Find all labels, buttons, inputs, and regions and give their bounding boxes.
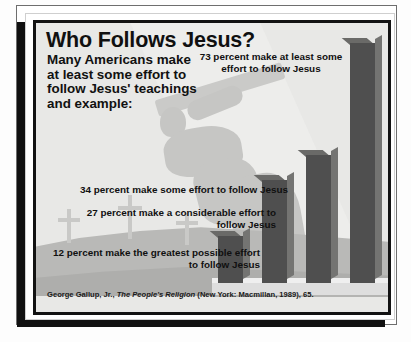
bar-side-face xyxy=(375,35,382,279)
callout-73-percent: 73 percent make at least some effort to … xyxy=(196,51,346,74)
callout-27-percent: 27 percent make a considerable effort to… xyxy=(58,207,276,230)
citation-publisher: (New York: Macmillan, 1989), 65. xyxy=(195,290,313,299)
bar-34-percent xyxy=(306,155,331,283)
figure-frame: Who Follows Jesus? Many Americans make a… xyxy=(33,20,391,315)
scanned-figure: Who Follows Jesus? Many Americans make a… xyxy=(0,0,411,342)
citation-book-title: The People's Religion xyxy=(117,290,196,299)
intro-paragraph: Many Americans make at least some effort… xyxy=(47,53,197,111)
bar-front-face xyxy=(306,155,331,283)
bar-side-face xyxy=(331,147,338,279)
figure-title: Who Follows Jesus? xyxy=(46,28,255,53)
bar-front-face xyxy=(350,43,375,283)
figure-artwork: Who Follows Jesus? Many Americans make a… xyxy=(36,23,388,312)
source-citation: George Gallup, Jr., The People's Religio… xyxy=(47,290,314,299)
citation-author: George Gallup, Jr., xyxy=(47,290,117,299)
callout-12-percent: 12 percent make the greatest possible ef… xyxy=(48,247,260,270)
bar-73-percent xyxy=(350,43,375,283)
callout-34-percent: 34 percent make some effort to follow Je… xyxy=(58,184,288,196)
bar-side-face xyxy=(287,172,294,279)
